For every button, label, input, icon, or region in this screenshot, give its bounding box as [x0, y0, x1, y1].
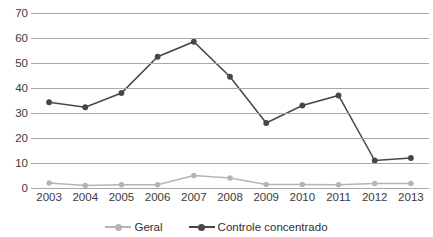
data-point — [300, 182, 305, 187]
data-point — [82, 104, 88, 110]
legend-item-label: Geral — [134, 221, 162, 233]
series-geral — [46, 173, 413, 188]
data-point — [372, 181, 377, 186]
data-point — [46, 180, 51, 185]
y-tick-label: 60 — [2, 33, 28, 44]
gridline — [31, 138, 429, 139]
line-chart: 010203040506070 200320042005200620072008… — [0, 0, 433, 237]
data-point — [263, 120, 269, 126]
legend-dot — [198, 224, 205, 231]
y-tick-label: 20 — [2, 133, 28, 144]
series-controle-concentrado — [46, 39, 414, 164]
x-tick-label: 2012 — [362, 191, 388, 203]
legend-item-label: Controle concentrado — [218, 221, 328, 233]
series-line — [49, 42, 411, 161]
y-tick-label: 0 — [2, 183, 28, 194]
gridline — [31, 113, 429, 114]
data-point — [119, 182, 124, 187]
data-point — [191, 173, 196, 178]
y-tick-label: 40 — [2, 83, 28, 94]
x-tick-label: 2009 — [253, 191, 279, 203]
series-layer — [31, 13, 429, 188]
line-marker-icon — [105, 222, 131, 232]
x-tick-label: 2011 — [326, 191, 351, 203]
y-tick-label: 10 — [2, 158, 28, 169]
plot-area — [31, 13, 429, 188]
legend-dot — [115, 224, 122, 231]
data-point — [336, 182, 341, 187]
gridline — [31, 13, 429, 14]
data-point — [191, 39, 197, 45]
gridline — [31, 88, 429, 89]
gridline — [31, 38, 429, 39]
x-tick-label: 2003 — [36, 191, 62, 203]
data-point — [408, 155, 414, 161]
gridline — [31, 63, 429, 64]
x-tick-label: 2013 — [398, 191, 424, 203]
line-marker-icon — [189, 222, 215, 232]
x-tick-label: 2006 — [145, 191, 171, 203]
legend-item-controle-concentrado: Controle concentrado — [189, 221, 328, 233]
x-tick-label: 2004 — [72, 191, 98, 203]
data-point — [408, 181, 413, 186]
y-tick-label: 50 — [2, 58, 28, 69]
y-axis: 010203040506070 — [0, 0, 28, 237]
data-point — [119, 90, 125, 96]
gridline — [31, 163, 429, 164]
data-point — [227, 175, 232, 180]
data-point — [336, 93, 342, 99]
data-point — [155, 182, 160, 187]
data-point — [46, 99, 52, 105]
data-point — [299, 103, 305, 109]
data-point — [227, 74, 233, 80]
data-point — [155, 54, 161, 60]
y-tick-label: 30 — [2, 108, 28, 119]
data-point — [263, 182, 268, 187]
x-tick-label: 2005 — [109, 191, 135, 203]
legend-item-geral: Geral — [105, 221, 162, 233]
x-tick-label: 2010 — [290, 191, 316, 203]
x-axis: 2003200420052006200720082009201020112012… — [31, 191, 429, 213]
y-tick-label: 70 — [2, 8, 28, 19]
x-tick-label: 2008 — [217, 191, 243, 203]
gridline — [31, 188, 429, 189]
chart-legend: Geral Controle concentrado — [0, 216, 433, 237]
x-tick-label: 2007 — [181, 191, 207, 203]
